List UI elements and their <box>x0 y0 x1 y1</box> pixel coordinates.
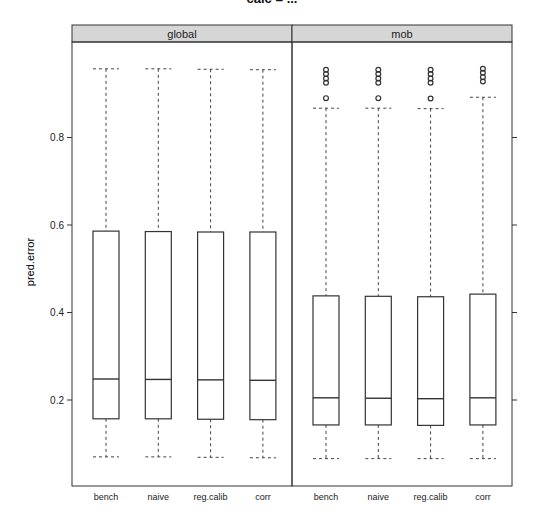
panel-global: globalbenchnaivereg.calibcorr <box>72 25 292 502</box>
box-body <box>198 232 224 419</box>
box-body <box>418 297 444 426</box>
x-tick-label: reg.calib <box>194 492 228 502</box>
box-body <box>470 294 496 425</box>
x-tick-label: bench <box>94 492 119 502</box>
y-tick-label: 0.8 <box>50 132 64 143</box>
box-body <box>93 231 119 419</box>
box-reg.calib <box>198 69 224 457</box>
outlier-point <box>428 96 433 101</box>
box-body <box>365 296 391 425</box>
box-body <box>145 232 171 419</box>
box-bench <box>93 69 119 457</box>
box-corr <box>250 70 276 458</box>
x-tick-label: bench <box>314 492 339 502</box>
box-bench <box>313 67 339 458</box>
strip-label: global <box>167 28 196 40</box>
strip-label: mob <box>391 28 412 40</box>
box-reg.calib <box>418 67 444 458</box>
box-corr <box>470 66 496 458</box>
y-axis: 0.20.40.60.8 <box>50 132 517 406</box>
y-tick-label: 0.2 <box>50 395 64 406</box>
boxplot-chart: globalbenchnaivereg.calibcorrmobbenchnai… <box>0 0 544 520</box>
box-body <box>250 232 276 420</box>
panel-mob: mobbenchnaivereg.calibcorr <box>292 25 512 502</box>
outlier-point <box>324 96 329 101</box>
x-tick-label: corr <box>475 492 491 502</box>
x-tick-label: naive <box>148 492 170 502</box>
x-tick-label: reg.calib <box>414 492 448 502</box>
outlier-point <box>376 96 381 101</box>
box-naive <box>365 67 391 458</box>
y-axis-label: pred.error <box>24 238 36 287</box>
box-body <box>313 296 339 425</box>
x-tick-label: naive <box>368 492 390 502</box>
box-naive <box>145 69 171 457</box>
x-tick-label: corr <box>255 492 271 502</box>
y-tick-label: 0.6 <box>50 220 64 231</box>
y-tick-label: 0.4 <box>50 307 64 318</box>
